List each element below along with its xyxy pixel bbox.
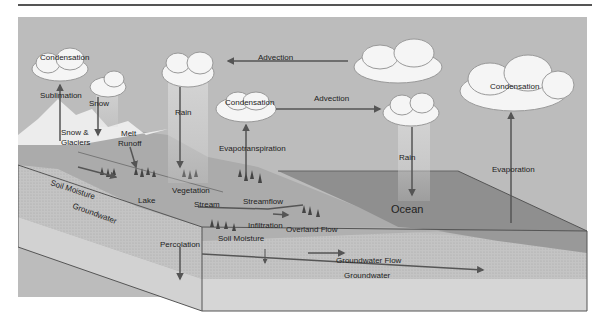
label-lake: Lake (138, 196, 156, 205)
rain-streaks-1 (168, 83, 208, 183)
label-streamflow: Streamflow (243, 197, 283, 206)
label-vegetation: Vegetation (172, 186, 210, 195)
label-evaporation: Evaporation (492, 165, 535, 174)
label-ocean: Ocean (391, 203, 423, 215)
water-cycle-diagram: Condensation Sublimation Snow Snow & Gla… (18, 17, 590, 312)
label-advection-1: Advection (258, 53, 293, 62)
label-stream: Stream (194, 200, 220, 209)
top-rule (18, 4, 592, 6)
streamflow-arrow (273, 214, 288, 215)
label-snow-glaciers-1: Snow & (61, 128, 89, 137)
label-evapotranspiration: Evapotranspiration (219, 144, 286, 153)
label-infiltration: Infiltration (248, 221, 283, 230)
label-groundwater-2: Groundwater (344, 271, 391, 280)
label-percolation: Percolation (160, 240, 200, 249)
label-soil-moisture-2: Soil Moisture (218, 234, 265, 243)
label-snow: Snow (89, 99, 109, 108)
label-rain-1: Rain (175, 108, 191, 117)
label-condensation-3: Condensation (490, 82, 539, 91)
label-condensation-2: Condensation (225, 98, 274, 107)
label-condensation-1: Condensation (40, 53, 89, 62)
diagram-canvas: Condensation Sublimation Snow Snow & Gla… (18, 17, 590, 312)
label-sublimation: Sublimation (40, 91, 82, 100)
label-runoff: Runoff (118, 139, 142, 148)
label-snow-glaciers-2: Glaciers (61, 138, 90, 147)
cloud-rain-1 (162, 52, 214, 87)
label-advection-2: Advection (314, 94, 349, 103)
label-overland-flow: Overland Flow (286, 225, 338, 234)
label-groundwater-flow: Groundwater Flow (336, 256, 402, 265)
label-melt: Melt (121, 129, 137, 138)
bedrock-front-face (202, 279, 587, 311)
label-rain-2: Rain (399, 153, 415, 162)
